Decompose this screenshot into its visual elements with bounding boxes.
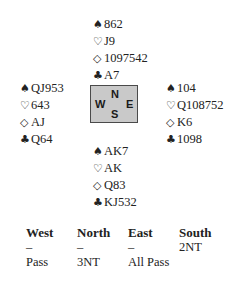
- club-icon: ♣: [93, 195, 104, 211]
- west-diamonds: ◇ AJ: [20, 114, 64, 131]
- west-hearts-cards: 643: [31, 97, 50, 113]
- spade-icon: ♠: [93, 144, 104, 160]
- south-hearts-cards: AK: [104, 160, 122, 176]
- compass-west-label: W: [95, 99, 105, 110]
- north-hearts-cards: J9: [104, 33, 115, 49]
- bid-cell: All Pass: [128, 255, 179, 270]
- south-diamonds: ◇ Q83: [93, 177, 137, 194]
- east-clubs-cards: 1098: [177, 131, 202, 147]
- spade-icon: ♠: [20, 81, 31, 97]
- north-spades: ♠ 862: [93, 16, 148, 33]
- east-diamonds: ◇ K6: [166, 114, 224, 131]
- bid-cell: –: [26, 240, 77, 255]
- east-hearts: ♡ Q108752: [166, 97, 224, 114]
- east-hearts-cards: Q108752: [177, 97, 224, 113]
- header-south: South: [179, 225, 230, 240]
- south-hand: ♠ AK7 ♡ AK ◇ Q83 ♣ KJ532: [93, 143, 137, 211]
- south-hearts: ♡ AK: [93, 160, 137, 177]
- heart-icon: ♡: [93, 161, 104, 177]
- heart-icon: ♡: [20, 98, 31, 114]
- west-hearts: ♡ 643: [20, 97, 64, 114]
- spade-icon: ♠: [93, 17, 104, 33]
- diamond-icon: ◇: [93, 178, 104, 194]
- east-spades-cards: 104: [177, 80, 196, 96]
- east-hand: ♠ 104 ♡ Q108752 ◇ K6 ♣ 1098: [166, 80, 224, 148]
- west-hand: ♠ QJ953 ♡ 643 ◇ AJ ♣ Q64: [20, 80, 64, 148]
- diamond-icon: ◇: [166, 115, 177, 131]
- south-diamonds-cards: Q83: [104, 177, 126, 193]
- north-spades-cards: 862: [104, 16, 123, 32]
- north-hearts: ♡ J9: [93, 33, 148, 50]
- east-clubs: ♣ 1098: [166, 131, 224, 148]
- bidding-header-row: West North East South: [26, 225, 230, 240]
- header-west: West: [26, 225, 77, 240]
- compass-box: N W E S: [90, 85, 138, 123]
- west-clubs-cards: Q64: [31, 131, 53, 147]
- bidding-row: Pass 3NT All Pass: [26, 255, 230, 270]
- west-clubs: ♣ Q64: [20, 131, 64, 148]
- compass-north-label: N: [111, 89, 119, 100]
- bid-cell: 2NT: [179, 240, 230, 255]
- diamond-icon: ◇: [20, 115, 31, 131]
- west-spades-cards: QJ953: [31, 80, 64, 96]
- header-east: East: [128, 225, 179, 240]
- south-clubs: ♣ KJ532: [93, 194, 137, 211]
- north-hand: ♠ 862 ♡ J9 ◇ 1097542 ♣ A7: [93, 16, 148, 84]
- north-clubs: ♣ A7: [93, 67, 148, 84]
- north-clubs-cards: A7: [104, 67, 119, 83]
- east-spades: ♠ 104: [166, 80, 224, 97]
- north-diamonds: ◇ 1097542: [93, 50, 148, 67]
- north-diamonds-cards: 1097542: [104, 50, 148, 66]
- bid-cell: –: [77, 240, 128, 255]
- bidding-table: West North East South – – – 2NT Pass 3NT…: [26, 225, 230, 270]
- south-clubs-cards: KJ532: [104, 194, 137, 210]
- header-north: North: [77, 225, 128, 240]
- bid-cell: –: [128, 240, 179, 255]
- heart-icon: ♡: [93, 34, 104, 50]
- diamond-icon: ◇: [93, 51, 104, 67]
- club-icon: ♣: [20, 132, 31, 148]
- bid-cell: 3NT: [77, 255, 128, 270]
- compass-east-label: E: [126, 99, 133, 110]
- east-diamonds-cards: K6: [177, 114, 192, 130]
- club-icon: ♣: [166, 132, 177, 148]
- bidding-row: – – – 2NT: [26, 240, 230, 255]
- west-spades: ♠ QJ953: [20, 80, 64, 97]
- south-spades-cards: AK7: [104, 143, 128, 159]
- heart-icon: ♡: [166, 98, 177, 114]
- club-icon: ♣: [93, 68, 104, 84]
- west-diamonds-cards: AJ: [31, 114, 45, 130]
- spade-icon: ♠: [166, 81, 177, 97]
- south-spades: ♠ AK7: [93, 143, 137, 160]
- bid-cell: Pass: [26, 255, 77, 270]
- compass-south-label: S: [111, 109, 118, 120]
- bid-cell: [179, 255, 230, 270]
